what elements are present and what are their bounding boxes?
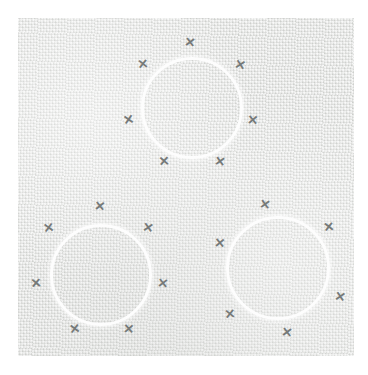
artwork-canvas — [0, 0, 368, 375]
circle-group-layer — [0, 0, 368, 375]
x-mark-icon — [212, 235, 226, 249]
circle-group-3 — [0, 0, 368, 375]
x-mark-icon — [280, 325, 295, 340]
x-mark-icon — [258, 197, 273, 212]
circle-bottom-right — [226, 216, 330, 320]
x-mark-icon — [321, 219, 335, 233]
x-mark-icon — [332, 288, 347, 303]
x-mark-icon — [222, 306, 236, 320]
